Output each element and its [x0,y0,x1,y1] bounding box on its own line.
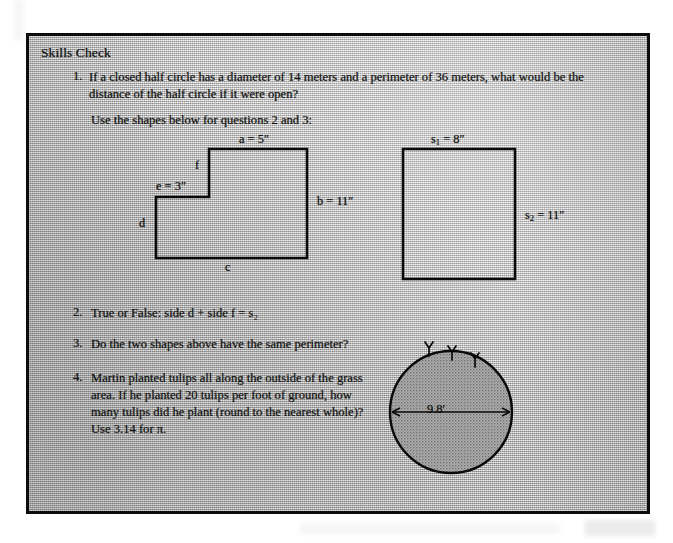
scanned-page: Skills Check 1. If a closed half circle … [0,0,673,543]
worksheet-frame: Skills Check 1. If a closed half circle … [26,33,650,514]
scan-smudge [14,0,24,40]
circle-diameter-label: 9.8′ [427,402,445,417]
scan-smudge [300,524,560,534]
circle-figure [29,36,650,514]
scan-smudge [585,520,655,536]
